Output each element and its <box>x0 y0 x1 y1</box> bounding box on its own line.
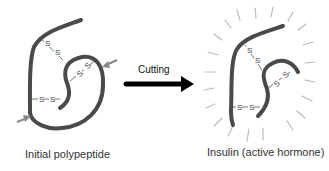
svg-text:S: S <box>237 103 242 112</box>
svg-text:S: S <box>45 39 50 48</box>
insulin-figure: S S S S S S <box>204 7 315 141</box>
cutting-label: Cutting <box>138 64 170 75</box>
svg-text:S: S <box>39 95 44 104</box>
glow-rays <box>204 7 315 141</box>
initial-polypeptide-label: Initial polypeptide <box>25 148 110 160</box>
insulin-label: Insulin (active hormone) <box>207 146 324 158</box>
svg-text:S: S <box>55 48 60 57</box>
disulfide-bond-lines-right <box>232 45 290 107</box>
svg-text:S: S <box>247 46 252 55</box>
cutting-arrow-icon <box>126 76 194 92</box>
polypeptide-strand <box>30 20 103 128</box>
initial-polypeptide-figure: S S S S S S <box>17 20 117 128</box>
svg-text:S: S <box>255 56 260 65</box>
svg-text:S: S <box>249 103 254 112</box>
svg-text:S: S <box>50 95 55 104</box>
